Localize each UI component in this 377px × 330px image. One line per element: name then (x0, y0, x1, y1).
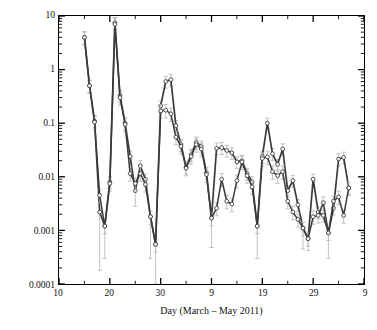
data-point-marker (250, 185, 254, 189)
x-tick-label-4: 19 (248, 288, 278, 299)
data-point-marker (154, 242, 158, 246)
data-point-marker (230, 151, 234, 155)
data-point-marker (128, 172, 132, 176)
x-tick-label-0: 10 (43, 288, 73, 299)
x-tick-label-5: 29 (299, 288, 329, 299)
plot-area (58, 15, 365, 285)
data-point-marker (103, 224, 107, 228)
data-point-marker (215, 146, 219, 150)
data-point-marker (266, 121, 270, 125)
data-point-marker (184, 166, 188, 170)
data-point-marker (144, 183, 148, 187)
x-tick-label-6: 9 (350, 288, 377, 299)
data-point-marker (133, 182, 137, 186)
data-point-marker (266, 155, 270, 159)
data-point-marker (138, 164, 142, 168)
data-point-marker (321, 201, 325, 205)
data-point-marker (347, 186, 351, 190)
data-point-marker (199, 147, 203, 151)
data-point-marker (174, 135, 178, 139)
data-point-marker (286, 199, 290, 203)
series-1 (82, 18, 351, 284)
data-point-marker (205, 173, 209, 177)
data-point-marker (194, 143, 198, 147)
data-point-marker (123, 123, 127, 127)
data-point-marker (316, 214, 320, 218)
data-point-marker (108, 182, 112, 186)
data-point-marker (296, 218, 300, 222)
data-point-marker (88, 84, 92, 88)
data-point-marker (291, 179, 295, 183)
data-point-marker (98, 210, 102, 214)
data-point-marker (225, 199, 229, 203)
data-point-marker (138, 172, 142, 176)
data-point-marker (301, 226, 305, 230)
data-point-marker (220, 177, 224, 181)
data-point-marker (83, 35, 87, 39)
data-point-marker (230, 202, 234, 206)
y-tick-label-0: 10 (0, 10, 55, 20)
data-point-marker (174, 124, 178, 128)
data-point-marker (169, 78, 173, 82)
x-tick-label-2: 30 (145, 288, 175, 299)
data-point-marker (113, 22, 117, 26)
y-tick-label-2: 0.1 (0, 118, 55, 128)
data-point-marker (337, 157, 341, 161)
data-point-marker (281, 170, 285, 174)
data-point-marker (327, 231, 331, 235)
y-tick-label-3: 0.01 (0, 172, 55, 182)
data-point-marker (337, 195, 341, 199)
data-point-marker (149, 215, 153, 219)
data-point-marker (220, 146, 224, 150)
data-point-marker (342, 214, 346, 218)
data-point-marker (93, 120, 97, 124)
data-point-marker (291, 210, 295, 214)
x-axis-title: Day (March – May 2011) (58, 305, 365, 316)
figure: 137Cs activity concentrations in surface… (0, 0, 377, 330)
data-point-marker (271, 152, 275, 156)
data-point-marker (98, 194, 102, 198)
data-point-marker (225, 149, 229, 153)
data-point-marker (332, 199, 336, 203)
data-point-marker (276, 163, 280, 167)
data-point-marker (245, 174, 249, 178)
y-tick-label-1: 1 (0, 64, 55, 74)
x-tick-label-3: 9 (197, 288, 227, 299)
data-point-marker (306, 237, 310, 241)
data-point-marker (255, 224, 259, 228)
data-point-marker (210, 216, 214, 220)
data-point-marker (235, 160, 239, 164)
data-point-marker (179, 144, 183, 148)
data-point-marker (342, 156, 346, 160)
data-point-marker (189, 155, 193, 159)
data-point-marker (260, 157, 264, 161)
data-point-marker (311, 215, 315, 219)
data-point-marker (164, 108, 168, 112)
data-point-marker (296, 203, 300, 207)
x-tick-label-1: 20 (94, 288, 124, 299)
data-point-marker (164, 80, 168, 84)
data-point-marker (271, 170, 275, 174)
y-tick-label-4: 0.001 (0, 226, 55, 236)
data-point-marker (159, 109, 163, 113)
data-point-marker (118, 96, 122, 100)
data-point-marker (240, 160, 244, 164)
data-point-marker (215, 206, 219, 210)
data-point-marker (169, 112, 173, 116)
data-point-marker (235, 179, 239, 183)
data-point-marker (276, 174, 280, 178)
data-point-marker (311, 177, 315, 181)
plot-svg (59, 16, 364, 284)
data-point-marker (281, 147, 285, 151)
